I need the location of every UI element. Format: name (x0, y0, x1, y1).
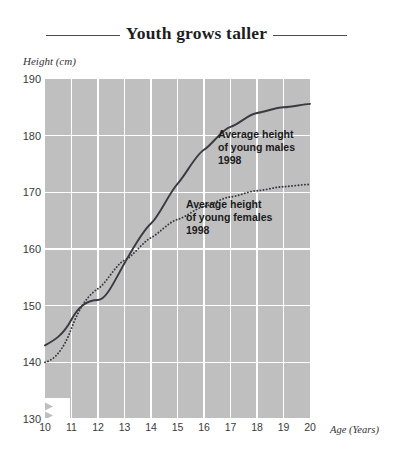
x-tick-18: 18 (251, 421, 263, 433)
y-tick-160: 160 (0, 243, 41, 255)
y-tick-130: 130 (0, 413, 41, 425)
plot-area: Average height of young males 1998 Avera… (45, 79, 310, 419)
x-tick-20: 20 (304, 421, 316, 433)
y-tick-190: 190 (0, 73, 41, 85)
y-axis-title: Height (cm) (23, 55, 76, 67)
annotation-females-line3: 1998 (186, 224, 272, 237)
y-tick-180: 180 (0, 130, 41, 142)
y-tick-150: 150 (0, 300, 41, 312)
annotation-males: Average height of young males 1998 (218, 128, 295, 167)
x-tick-11: 11 (66, 421, 77, 433)
y-axis-ticks: 190 180 170 160 150 140 130 (0, 79, 41, 419)
annotation-females-line2: of young females (186, 211, 272, 224)
y-tick-170: 170 (0, 186, 41, 198)
x-tick-17: 17 (225, 421, 237, 433)
page-title: Youth grows taller (126, 25, 267, 45)
annotation-females-line1: Average height (186, 198, 272, 211)
x-tick-13: 13 (119, 421, 131, 433)
x-tick-19: 19 (278, 421, 290, 433)
x-tick-15: 15 (172, 421, 184, 433)
title-rule-right (273, 35, 347, 36)
x-tick-16: 16 (198, 421, 210, 433)
x-tick-10: 10 (39, 421, 51, 433)
annotation-females: Average height of young females 1998 (186, 198, 272, 237)
x-tick-14: 14 (145, 421, 157, 433)
title-rule-left (46, 35, 120, 36)
y-tick-140: 140 (0, 356, 41, 368)
chart-title-block: Youth grows taller (0, 22, 393, 48)
x-tick-12: 12 (92, 421, 104, 433)
annotation-males-line1: Average height (218, 128, 295, 141)
x-axis-ticks: 10 11 12 13 14 15 16 17 18 19 20 (45, 421, 310, 439)
annotation-males-line2: of young males (218, 141, 295, 154)
annotation-males-line3: 1998 (218, 154, 295, 167)
x-axis-title: Age (Years) (330, 424, 379, 435)
